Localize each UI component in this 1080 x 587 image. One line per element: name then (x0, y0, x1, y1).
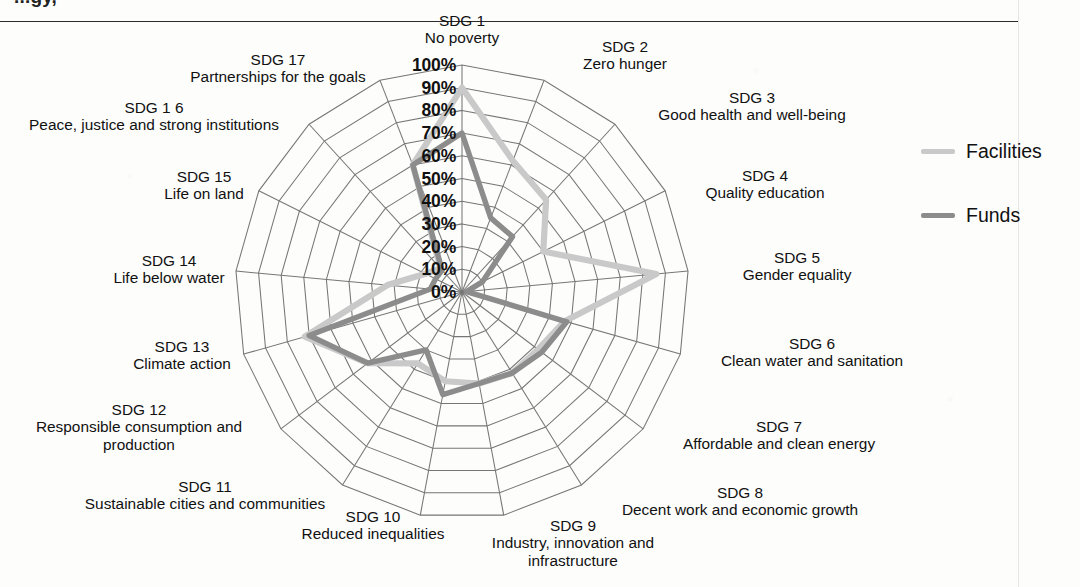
category-number: SDG 17 (190, 51, 365, 68)
legend-item-facilities[interactable]: Facilities (921, 140, 1071, 162)
radial-tick-100: 100% (412, 55, 456, 76)
category-label-4: SDG 4Quality education (706, 167, 825, 202)
radial-tick-80: 80% (422, 100, 456, 121)
radar-series-layer (305, 88, 657, 395)
category-label-13: SDG 13Climate action (133, 338, 231, 373)
chart-page: ...gy, 0%10%20%30%40%50%60%70%80%90%100%… (0, 0, 1080, 587)
legend-swatch-facilities (921, 149, 955, 154)
chart-legend: Facilities Funds (921, 140, 1071, 268)
radial-tick-0: 0% (431, 282, 456, 303)
category-label-17: SDG 17Partnerships for the goals (190, 51, 365, 86)
category-name: Responsible consumption and production (36, 418, 242, 452)
category-name: Clean water and sanitation (721, 352, 903, 369)
category-label-3: SDG 3Good health and well-being (658, 89, 845, 124)
category-number: SDG 15 (164, 168, 244, 185)
category-label-1: SDG 1No poverty (425, 12, 499, 47)
category-number: SDG 9 (492, 517, 654, 534)
category-label-14: SDG 14Life below water (113, 252, 224, 287)
radial-tick-70: 70% (422, 123, 456, 144)
category-name: Zero hunger (583, 55, 667, 72)
category-name: Peace, justice and strong institutions (29, 116, 279, 133)
category-label-15: SDG 15Life on land (164, 168, 244, 203)
category-name: Decent work and economic growth (622, 501, 858, 518)
category-number: SDG 1 6 (29, 99, 279, 116)
series-path-facilities (305, 88, 657, 384)
category-label-11: SDG 11Sustainable cities and communities (85, 478, 325, 513)
category-label-7: SDG 7Affordable and clean energy (683, 418, 875, 453)
category-label-2: SDG 2Zero hunger (583, 38, 667, 73)
category-label-10: SDG 10Reduced inequalities (302, 508, 445, 543)
category-number: SDG 3 (658, 89, 845, 106)
category-name: Sustainable cities and communities (85, 495, 325, 512)
category-number: SDG 6 (721, 335, 903, 352)
category-number: SDG 7 (683, 418, 875, 435)
radial-tick-90: 90% (422, 77, 456, 98)
category-label-8: SDG 8Decent work and economic growth (622, 484, 858, 519)
category-name: Quality education (706, 184, 825, 201)
category-name: Industry, innovation and infrastructure (492, 534, 654, 568)
radial-tick-20: 20% (422, 236, 456, 257)
category-name: No poverty (425, 29, 499, 46)
grid-spoke-7 (462, 292, 643, 429)
category-number: SDG 8 (622, 484, 858, 501)
category-name: Gender equality (743, 266, 852, 283)
category-number: SDG 5 (743, 249, 852, 266)
category-name: Reduced inequalities (302, 525, 445, 542)
category-number: SDG 2 (583, 38, 667, 55)
category-label-12: SDG 12Responsible consumption and produc… (36, 401, 242, 453)
grid-spoke-4 (462, 191, 665, 292)
category-name: Climate action (133, 355, 231, 372)
legend-label-funds: Funds (966, 204, 1020, 227)
category-label-6: SDG 6Clean water and sanitation (721, 335, 903, 370)
category-number: SDG 4 (706, 167, 825, 184)
radial-tick-10: 10% (422, 259, 456, 280)
radial-tick-40: 40% (422, 191, 456, 212)
category-label-5: SDG 5Gender equality (743, 249, 852, 284)
category-name: Affordable and clean energy (683, 435, 875, 452)
radial-tick-30: 30% (422, 213, 456, 234)
category-name: Partnerships for the goals (190, 68, 365, 85)
category-name: Life on land (164, 185, 244, 202)
category-label-9: SDG 9Industry, innovation and infrastruc… (492, 517, 654, 569)
legend-item-funds[interactable]: Funds (921, 204, 1071, 226)
legend-swatch-funds (921, 213, 955, 218)
radial-tick-60: 60% (422, 145, 456, 166)
radial-tick-50: 50% (422, 168, 456, 189)
category-number: SDG 13 (133, 338, 231, 355)
category-number: SDG 12 (36, 401, 242, 418)
category-label-16: SDG 1 6Peace, justice and strong institu… (29, 99, 279, 134)
legend-label-facilities: Facilities (966, 140, 1042, 163)
category-name: Life below water (113, 269, 224, 286)
category-number: SDG 14 (113, 252, 224, 269)
category-number: SDG 1 (425, 12, 499, 29)
category-number: SDG 11 (85, 478, 325, 495)
category-name: Good health and well-being (658, 106, 845, 123)
